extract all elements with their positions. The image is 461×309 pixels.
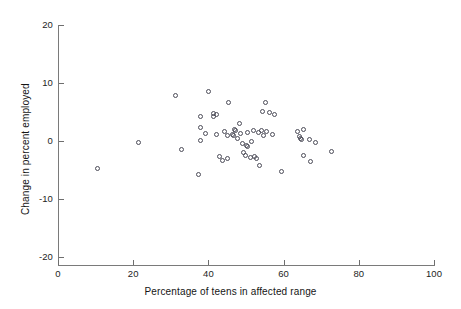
data-point [301, 127, 306, 132]
data-point [136, 140, 141, 145]
x-tick-mark [133, 260, 134, 265]
data-point [198, 114, 203, 119]
data-point [203, 131, 208, 136]
x-tick-label: 0 [43, 268, 73, 279]
x-tick-mark [284, 260, 285, 265]
y-tick-mark [59, 83, 64, 84]
data-point [245, 130, 250, 135]
data-point [295, 129, 300, 134]
x-tick-mark [434, 260, 435, 265]
data-point [263, 100, 268, 105]
data-point [238, 131, 243, 136]
y-axis-title: Change in percent employed [20, 83, 31, 215]
data-point [251, 128, 256, 133]
x-tick-label: 20 [118, 268, 148, 279]
data-point [225, 156, 230, 161]
x-tick-mark [58, 260, 59, 265]
data-point [270, 132, 275, 137]
data-point [214, 112, 219, 117]
data-point [237, 121, 242, 126]
data-point [243, 153, 248, 158]
x-tick-label: 40 [193, 268, 223, 279]
y-tick-mark [59, 25, 64, 26]
x-axis-title: Percentage of teens in affected range [0, 286, 461, 297]
x-tick-mark [359, 260, 360, 265]
plot-area [58, 25, 434, 257]
data-point [307, 137, 312, 142]
y-tick-label: -20 [23, 251, 53, 262]
data-point [264, 129, 269, 134]
data-point [254, 156, 259, 161]
scatter-plot-figure: 20100-10-20 020406080100 Percentage of t… [0, 0, 461, 309]
x-tick-label: 80 [344, 268, 374, 279]
y-tick-mark [59, 199, 64, 200]
x-tick-label: 100 [419, 268, 449, 279]
y-tick-mark [59, 141, 64, 142]
x-tick-mark [208, 260, 209, 265]
x-tick-label: 60 [269, 268, 299, 279]
y-tick-mark [59, 257, 64, 258]
y-tick-label: 20 [23, 19, 53, 30]
x-axis-line [58, 265, 435, 266]
data-point [206, 89, 211, 94]
y-axis-line [58, 25, 59, 265]
